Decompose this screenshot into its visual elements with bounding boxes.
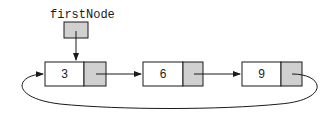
first-node-label: firstNode [50,8,115,22]
node-value: 9 [258,67,265,81]
linked-list-diagram: firstNode 3 6 9 [0,0,336,114]
node-value: 6 [160,67,167,81]
node-value: 3 [61,67,68,81]
first-node-pointer: firstNode [50,8,115,60]
